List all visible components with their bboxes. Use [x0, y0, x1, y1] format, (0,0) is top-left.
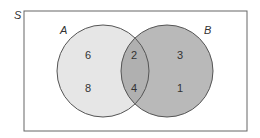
- region-b-only-bottom: 1: [177, 83, 183, 94]
- region-ab-top: 2: [131, 50, 137, 61]
- universe-label: S: [14, 10, 21, 21]
- region-ab-bottom: 4: [131, 83, 137, 94]
- venn-diagram: [0, 0, 260, 138]
- set-b-label: B: [204, 25, 211, 36]
- region-b-only-top: 3: [177, 50, 183, 61]
- region-a-only-top: 6: [85, 50, 91, 61]
- region-a-only-bottom: 8: [85, 83, 91, 94]
- set-a-label: A: [60, 25, 67, 36]
